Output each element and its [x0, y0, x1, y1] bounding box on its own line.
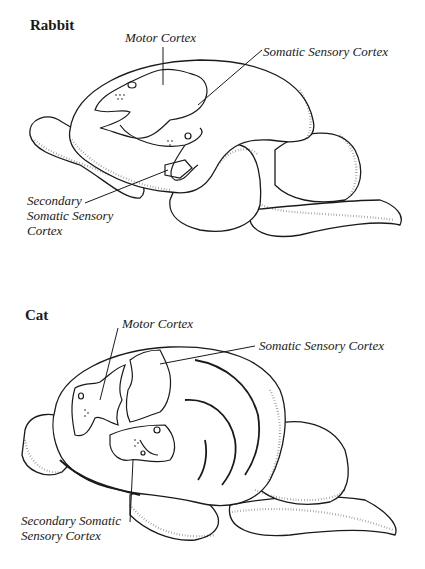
rabbit-title: Rabbit — [30, 17, 74, 34]
rabbit-somatic-sensory-cortex-label: Somatic Sensory Cortex — [263, 44, 388, 59]
rabbit-secondary-line-3: Cortex — [27, 223, 113, 238]
cat-secondary-line-1: Secondary Somatic — [21, 513, 121, 528]
rabbit-secondary-line-1: Secondary — [27, 193, 113, 208]
rabbit-figure: Rabbit Motor Cortex Somatic Sensory Cort… — [0, 0, 425, 285]
rabbit-brain-drawing — [0, 0, 425, 285]
cat-figure: Cat Motor Cortex Somatic Sensory Cortex … — [0, 290, 425, 569]
rabbit-secondary-somatic-sensory-cortex-label: Secondary Somatic Sensory Cortex — [27, 193, 113, 238]
cat-somatic-sensory-cortex-label: Somatic Sensory Cortex — [259, 338, 384, 353]
cat-title: Cat — [25, 307, 48, 324]
rabbit-motor-cortex-label: Motor Cortex — [125, 30, 196, 45]
cat-secondary-somatic-sensory-cortex-label: Secondary Somatic Sensory Cortex — [21, 513, 121, 543]
cat-motor-cortex-label: Motor Cortex — [122, 316, 193, 331]
cat-secondary-line-2: Sensory Cortex — [21, 528, 121, 543]
rabbit-secondary-line-2: Somatic Sensory — [27, 208, 113, 223]
